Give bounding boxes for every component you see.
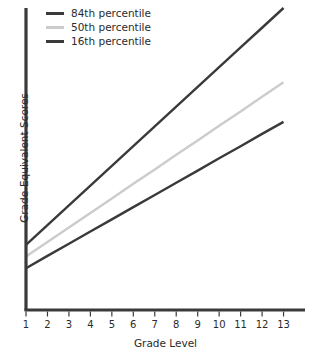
x-tick-label: 1 <box>23 319 29 330</box>
x-tick-label: 6 <box>130 319 136 330</box>
x-tick-label: 8 <box>173 319 179 330</box>
x-axis-title: Grade Level <box>26 337 305 349</box>
series-line-50th <box>26 82 284 256</box>
x-tick-label: 13 <box>277 319 290 330</box>
x-tick-label: 5 <box>109 319 115 330</box>
x-tick-label: 7 <box>152 319 158 330</box>
y-axis-title: Grade-Equivalent Scores <box>18 68 30 248</box>
x-tick-label: 10 <box>213 319 226 330</box>
x-tick-label: 9 <box>195 319 201 330</box>
series-line-84th <box>26 8 284 245</box>
series-layer <box>26 8 284 268</box>
plot-area: 12345678910111213 <box>0 0 320 355</box>
x-tick-label: 4 <box>87 319 93 330</box>
x-tick-label: 12 <box>256 319 269 330</box>
chart-container: 84th percentile 50th percentile 16th per… <box>0 0 320 355</box>
x-tick-label: 11 <box>234 319 247 330</box>
x-tick-label: 3 <box>66 319 72 330</box>
series-line-16th <box>26 122 284 268</box>
axis-layer <box>24 8 305 310</box>
x-tick-labels: 12345678910111213 <box>23 312 290 330</box>
x-tick-label: 2 <box>44 319 50 330</box>
